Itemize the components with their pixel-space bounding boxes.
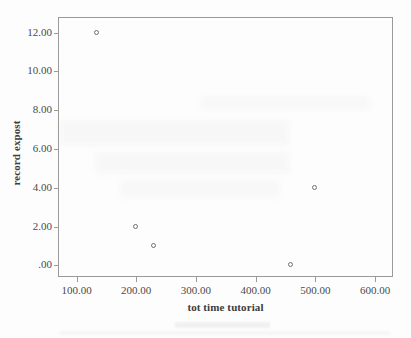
scan-artifact <box>60 331 390 335</box>
x-axis-tick <box>196 277 197 282</box>
y-axis-tick <box>54 71 59 72</box>
y-axis-tick <box>54 149 59 150</box>
scatter-plot-chart: .002.004.006.008.0010.0012.00 100.00200.… <box>0 0 411 338</box>
data-point <box>94 30 99 35</box>
y-axis-tick-label: 10.00 <box>27 65 52 76</box>
y-axis-tick-label: 2.00 <box>33 221 52 232</box>
x-axis-tick <box>77 277 78 282</box>
x-axis-tick-label: 100.00 <box>61 285 91 296</box>
x-axis-tick <box>256 277 257 282</box>
data-point <box>151 243 156 248</box>
data-point <box>288 262 293 267</box>
y-axis-tick <box>54 33 59 34</box>
y-axis-tick <box>54 227 59 228</box>
y-axis-tick-label: 12.00 <box>27 27 52 38</box>
y-axis-title: record expost <box>10 83 22 223</box>
x-axis-tick-label: 200.00 <box>121 285 151 296</box>
x-axis-title: tot time tutorial <box>58 301 393 313</box>
x-axis-tick <box>136 277 137 282</box>
y-axis-tick <box>54 265 59 266</box>
y-axis-tick <box>54 110 59 111</box>
x-axis-tick <box>315 277 316 282</box>
y-axis-tick <box>54 188 59 189</box>
scan-artifact <box>175 322 270 328</box>
data-point <box>133 224 138 229</box>
x-axis-tick-label: 400.00 <box>241 285 271 296</box>
y-axis-tick-label: 8.00 <box>33 104 52 115</box>
y-axis-tick-label: 4.00 <box>33 182 52 193</box>
x-axis-tick-label: 500.00 <box>300 285 330 296</box>
x-axis-tick-label: 600.00 <box>360 285 390 296</box>
data-point <box>312 185 317 190</box>
y-axis-tick-label: 6.00 <box>33 143 52 154</box>
x-axis-tick-labels: 100.00200.00300.00400.00500.00600.00 <box>58 285 393 299</box>
y-axis-tick-labels: .002.004.006.008.0010.0012.00 <box>0 17 52 277</box>
x-axis-tick-label: 300.00 <box>181 285 211 296</box>
x-axis-tick <box>375 277 376 282</box>
plot-data-area <box>58 17 393 277</box>
y-axis-tick-label: .00 <box>38 259 52 270</box>
